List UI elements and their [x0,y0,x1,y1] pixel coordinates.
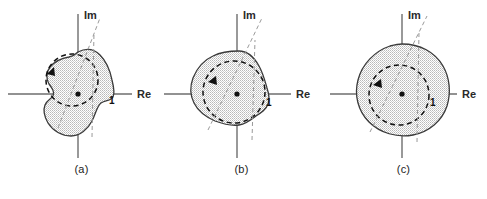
real-axis-label: Re [296,88,310,100]
panel-c-plot: Im Re 1 [322,0,487,163]
unit-tick-label: 1 [266,97,272,108]
mapped-region-contour [191,51,269,125]
panel-c: Im Re 1 (c) [322,0,485,199]
mapped-region-contour [356,44,449,136]
imaginary-axis-label: Im [408,9,421,21]
panel-a-plot: Im Re 1 [0,0,163,163]
panel-b-caption: (b) [160,163,323,175]
panel-a-caption: (a) [0,163,163,175]
panel-b: Im Re 1 (b) [160,0,323,199]
origin-point [75,91,80,96]
real-axis-label: Re [137,88,151,100]
unit-tick-label: 1 [430,97,436,108]
unit-tick-label: 1 [109,95,115,106]
origin-point [234,91,239,96]
panel-c-caption: (c) [322,163,485,175]
figure-root: Im Re 1 (a) Im Re 1 [0,0,487,199]
panel-a: Im Re 1 (a) [0,0,163,199]
real-axis-label: Re [462,88,476,100]
imaginary-axis-label: Im [243,9,256,21]
origin-point [399,91,404,96]
imaginary-axis-label: Im [84,9,97,21]
panel-b-plot: Im Re 1 [160,0,323,163]
